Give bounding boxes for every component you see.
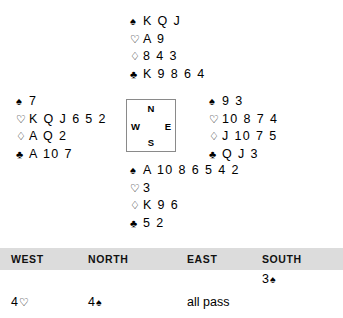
hand-north-clubs: K 9 8 6 4 xyxy=(143,66,206,84)
club-symbol: ♣ xyxy=(130,215,143,233)
compass-box: N W E S xyxy=(126,99,176,152)
hand-north-hearts: A 9 xyxy=(143,31,165,49)
hand-east-hearts: 10 8 7 4 xyxy=(222,111,278,129)
hand-south-hearts: 3 xyxy=(143,180,151,198)
bidding-header-west: WEST xyxy=(11,253,44,265)
spade-symbol: ♠ xyxy=(96,296,102,308)
hand-row-diamonds: ♢ K 9 6 xyxy=(130,197,240,215)
hand-south-clubs: 5 2 xyxy=(143,215,165,233)
heart-symbol: ♡ xyxy=(130,180,143,198)
club-symbol: ♣ xyxy=(16,146,29,164)
hand-row-hearts: ♡ K Q J 6 5 2 xyxy=(16,111,107,129)
bidding-row-2: 4♡ 4♠ all pass xyxy=(0,293,343,316)
diamond-symbol: ♢ xyxy=(130,48,143,66)
hand-west-clubs: A 10 7 xyxy=(29,146,73,164)
spade-symbol: ♠ xyxy=(130,162,143,180)
hand-row-clubs: ♣ K 9 8 6 4 xyxy=(130,66,206,84)
bid-north-round-2: 4♠ xyxy=(88,295,102,309)
hand-row-hearts: ♡ A 9 xyxy=(130,31,206,49)
hand-row-clubs: ♣ A 10 7 xyxy=(16,146,107,164)
hand-north: ♠ K Q J ♡ A 9 ♢ 8 4 3 ♣ K 9 8 6 4 xyxy=(130,13,206,83)
hand-row-spades: ♠ A 10 8 6 5 4 2 xyxy=(130,162,240,180)
hand-south-spades: A 10 8 6 5 4 2 xyxy=(143,162,240,180)
hand-east: ♠ 9 3 ♡ 10 8 7 4 ♢ J 10 7 5 ♣ Q J 3 xyxy=(209,93,278,163)
heart-symbol: ♡ xyxy=(209,111,222,129)
hand-row-hearts: ♡ 10 8 7 4 xyxy=(209,111,278,129)
hand-east-spades: 9 3 xyxy=(222,93,244,111)
hand-west-hearts: K Q J 6 5 2 xyxy=(29,111,107,129)
hand-row-diamonds: ♢ J 10 7 5 xyxy=(209,128,278,146)
hand-row-spades: ♠ 9 3 xyxy=(209,93,278,111)
hand-west-diamonds: A Q 2 xyxy=(29,128,67,146)
compass-west-label: W xyxy=(131,120,140,131)
heart-symbol: ♡ xyxy=(16,111,29,129)
heart-symbol: ♡ xyxy=(130,31,143,49)
spade-symbol: ♠ xyxy=(209,93,222,111)
compass-south-label: S xyxy=(148,137,154,148)
hand-row-hearts: ♡ 3 xyxy=(130,180,240,198)
hand-row-spades: ♠ 7 xyxy=(16,93,107,111)
diamond-symbol: ♢ xyxy=(209,128,222,146)
spade-symbol: ♠ xyxy=(130,13,143,31)
hand-north-diamonds: 8 4 3 xyxy=(143,48,178,66)
hand-row-diamonds: ♢ 8 4 3 xyxy=(130,48,206,66)
heart-symbol: ♡ xyxy=(19,296,29,308)
hand-row-diamonds: ♢ A Q 2 xyxy=(16,128,107,146)
bid-east-round-2: all pass xyxy=(187,295,229,309)
hand-east-diamonds: J 10 7 5 xyxy=(222,128,278,146)
club-symbol: ♣ xyxy=(130,66,143,84)
bidding-table: WEST NORTH EAST SOUTH 3♠ 4♡ 4♠ all pass xyxy=(0,248,343,316)
diamond-symbol: ♢ xyxy=(16,128,29,146)
bid-level: 3 xyxy=(262,272,269,286)
hand-row-clubs: ♣ Q J 3 xyxy=(209,146,278,164)
bid-level: 4 xyxy=(88,295,95,309)
hand-west-spades: 7 xyxy=(29,93,37,111)
spade-symbol: ♠ xyxy=(16,93,29,111)
hand-north-spades: K Q J xyxy=(143,13,181,31)
hand-row-spades: ♠ K Q J xyxy=(130,13,206,31)
hand-south-diamonds: K 9 6 xyxy=(143,197,179,215)
bid-west-round-2: 4♡ xyxy=(11,295,29,309)
bid-level: 4 xyxy=(11,295,18,309)
bidding-row-1: 3♠ xyxy=(0,270,343,293)
diamond-symbol: ♢ xyxy=(130,197,143,215)
bidding-header-east: EAST xyxy=(187,253,217,265)
bidding-header-north: NORTH xyxy=(88,253,128,265)
spade-symbol: ♠ xyxy=(270,273,276,285)
hand-row-clubs: ♣ 5 2 xyxy=(130,215,240,233)
club-symbol: ♣ xyxy=(209,146,222,164)
hand-west: ♠ 7 ♡ K Q J 6 5 2 ♢ A Q 2 ♣ A 10 7 xyxy=(16,93,107,163)
compass-north-label: N xyxy=(148,103,155,114)
bidding-header-south: SOUTH xyxy=(262,253,302,265)
hand-east-clubs: Q J 3 xyxy=(222,146,259,164)
bid-south-round-1: 3♠ xyxy=(262,272,276,286)
hand-south: ♠ A 10 8 6 5 4 2 ♡ 3 ♢ K 9 6 ♣ 5 2 xyxy=(130,162,240,232)
compass-east-label: E xyxy=(165,120,171,131)
bidding-header-row: WEST NORTH EAST SOUTH xyxy=(0,248,343,270)
